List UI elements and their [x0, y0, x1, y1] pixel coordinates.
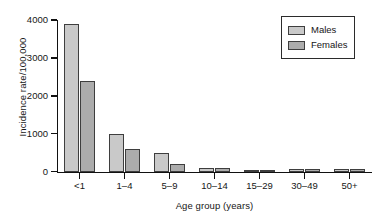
bar-females — [170, 164, 186, 172]
y-axis-title: Incidence rate/100,000 — [17, 2, 31, 172]
bar-females — [305, 169, 321, 172]
x-tick — [124, 173, 125, 179]
y-tick-label: 2000 — [6, 90, 48, 101]
bar-males — [109, 134, 125, 172]
x-tick-label: 10–14 — [192, 180, 237, 191]
x-tick-label: <1 — [57, 180, 102, 191]
x-axis-title: Age group (years) — [57, 200, 372, 211]
x-tick-label: 15–29 — [237, 180, 282, 191]
x-tick-label: 50+ — [327, 180, 372, 191]
y-tick-label: 4000 — [6, 14, 48, 25]
legend-swatch-males-icon — [288, 26, 305, 35]
legend-swatch-females-icon — [288, 41, 305, 50]
x-tick — [304, 173, 305, 179]
bar-males — [199, 168, 215, 171]
x-tick-label: 1–4 — [102, 180, 147, 191]
bar-males — [334, 169, 350, 172]
x-tick — [214, 173, 215, 179]
bar-females — [215, 168, 231, 171]
x-tick — [259, 173, 260, 179]
bar-females — [260, 170, 276, 172]
bar-males — [64, 24, 80, 172]
bar-females — [80, 81, 96, 172]
legend-label-females: Females — [311, 40, 347, 50]
legend-item-females: Females — [288, 38, 347, 52]
bar-males — [289, 169, 305, 172]
x-tick — [79, 173, 80, 179]
bar-females — [125, 149, 141, 172]
bar-chart: Incidence rate/100,000 01000200030004000… — [0, 0, 377, 220]
y-tick-label: 1000 — [6, 128, 48, 139]
bar-males — [154, 153, 170, 172]
bar-females — [350, 169, 366, 172]
y-tick-label: 0 — [6, 166, 48, 177]
legend-item-males: Males — [288, 23, 347, 37]
x-tick-label: 5–9 — [147, 180, 192, 191]
x-tick — [349, 173, 350, 179]
x-tick — [169, 173, 170, 179]
chart-legend: Males Females — [281, 16, 355, 59]
y-tick-label: 3000 — [6, 52, 48, 63]
bar-males — [244, 170, 260, 172]
legend-label-males: Males — [311, 25, 336, 35]
x-tick-label: 30–49 — [282, 180, 327, 191]
